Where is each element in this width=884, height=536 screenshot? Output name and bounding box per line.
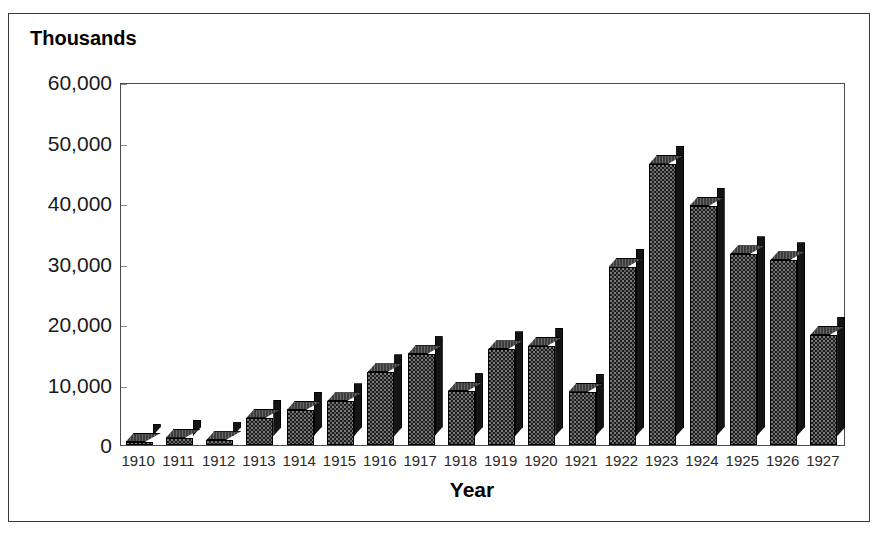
bar — [246, 409, 281, 445]
bar — [810, 326, 845, 445]
x-tick-label: 1910 — [121, 452, 154, 469]
x-tick-label: 1917 — [403, 452, 436, 469]
bar-top-face — [126, 433, 161, 442]
bar — [528, 337, 563, 445]
bar — [327, 392, 362, 445]
bar-front-face — [327, 401, 354, 445]
bar-side-face — [717, 188, 725, 436]
x-tick-label: 1925 — [726, 452, 759, 469]
y-tick-label: 50,000 — [48, 132, 112, 156]
bar — [649, 155, 684, 445]
bar-front-face — [448, 391, 475, 445]
x-axis-title: Year — [0, 478, 884, 502]
y-tick-mark — [121, 326, 127, 327]
x-tick-label: 1919 — [484, 452, 517, 469]
x-axis-title-text: Year — [450, 478, 494, 502]
bar — [770, 251, 805, 445]
bar — [166, 429, 201, 445]
bar-front-face — [730, 254, 757, 445]
bar-side-face — [636, 249, 644, 436]
y-tick-mark — [121, 84, 127, 85]
y-tick-label: 40,000 — [48, 192, 112, 216]
y-tick-label: 0 — [100, 434, 112, 458]
y-tick-label: 30,000 — [48, 253, 112, 277]
bar-side-face — [314, 392, 322, 436]
bar — [730, 245, 765, 445]
bar — [448, 382, 483, 445]
x-tick-label: 1916 — [363, 452, 396, 469]
bar — [569, 383, 604, 445]
bar — [287, 401, 322, 445]
bar-front-face — [166, 438, 193, 445]
bar — [609, 258, 644, 445]
x-tick-label: 1920 — [524, 452, 557, 469]
chart-figure: Thousands 60,00050,00040,00030,00020,000… — [0, 0, 884, 536]
x-tick-label: 1922 — [605, 452, 638, 469]
x-tick-label: 1912 — [202, 452, 235, 469]
bar-top-face — [206, 431, 241, 440]
x-tick-label: 1914 — [283, 452, 316, 469]
x-tick-label: 1918 — [444, 452, 477, 469]
y-tick-mark — [121, 205, 127, 206]
bar — [126, 433, 161, 445]
bar-front-face — [488, 349, 515, 445]
bar-side-face — [676, 146, 684, 436]
bar-side-face — [837, 317, 845, 436]
bar-front-face — [609, 267, 636, 445]
bar-side-face — [193, 420, 201, 436]
x-tick-label: 1926 — [766, 452, 799, 469]
y-axis-title: Thousands — [30, 27, 137, 50]
bar-side-face — [435, 336, 443, 436]
bar-front-face — [569, 392, 596, 445]
y-tick-mark — [121, 145, 127, 146]
plot-inner-surface — [121, 84, 844, 445]
bar-front-face — [770, 260, 797, 445]
bar-side-face — [273, 400, 281, 436]
bar-front-face — [367, 372, 394, 445]
bar-side-face — [515, 331, 523, 436]
x-tick-label: 1921 — [565, 452, 598, 469]
x-tick-label: 1915 — [323, 452, 356, 469]
x-tick-label: 1923 — [645, 452, 678, 469]
y-tick-label: 20,000 — [48, 313, 112, 337]
bar-front-face — [126, 442, 153, 445]
y-tick-label: 60,000 — [48, 71, 112, 95]
x-tick-label: 1913 — [242, 452, 275, 469]
bar — [206, 431, 241, 445]
bar-side-face — [354, 383, 362, 436]
x-tick-label: 1924 — [685, 452, 718, 469]
bar-side-face — [797, 242, 805, 436]
bar-front-face — [528, 346, 555, 445]
bar-front-face — [206, 440, 233, 445]
bar-top-face — [166, 429, 201, 438]
bar — [690, 197, 725, 445]
bar-front-face — [810, 335, 837, 445]
bar-front-face — [246, 418, 273, 445]
y-tick-mark — [121, 387, 127, 388]
y-tick-mark — [121, 266, 127, 267]
y-tick-label: 10,000 — [48, 374, 112, 398]
plot-area-frame — [120, 83, 845, 446]
x-tick-label: 1911 — [162, 452, 194, 469]
bar — [488, 340, 523, 445]
x-tick-label: 1927 — [806, 452, 839, 469]
bar-front-face — [287, 410, 314, 445]
bars-layer — [121, 84, 844, 445]
bar-side-face — [555, 328, 563, 436]
bar-front-face — [690, 206, 717, 445]
bar — [408, 345, 443, 445]
bar-side-face — [757, 236, 765, 436]
bar-front-face — [649, 164, 676, 445]
bar-front-face — [408, 354, 435, 445]
bar — [367, 363, 402, 445]
y-axis-tick-labels: 60,00050,00040,00030,00020,00010,0000 — [18, 83, 112, 446]
